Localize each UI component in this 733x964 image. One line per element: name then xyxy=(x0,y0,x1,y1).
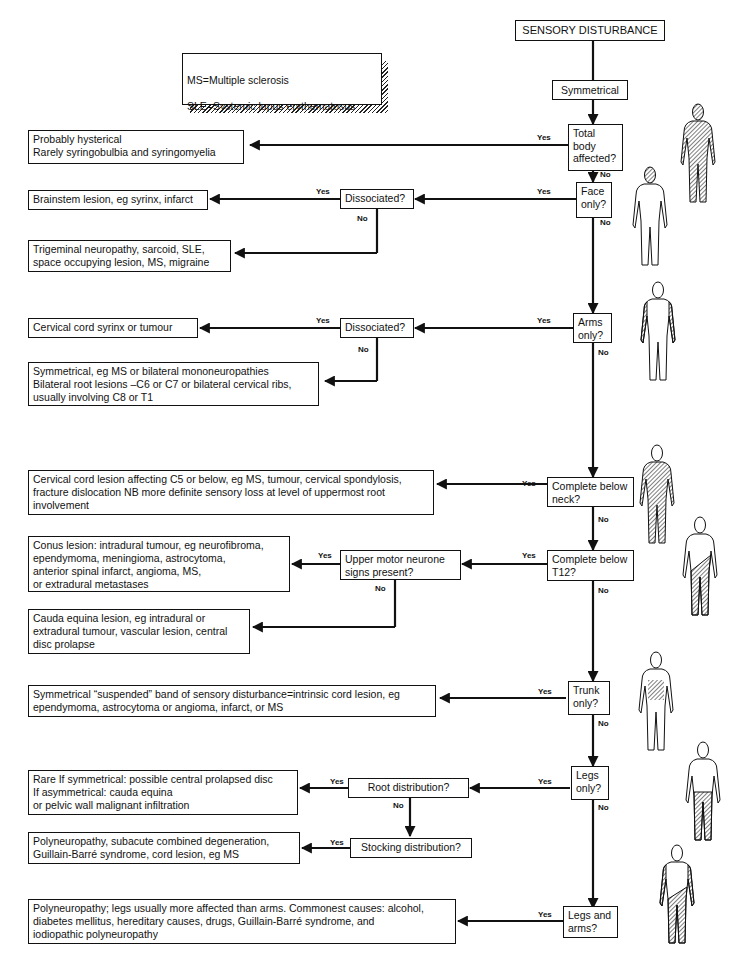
outcome-suspended-band: Symmetrical “suspended” band of sensory … xyxy=(28,685,436,717)
outcome-trigeminal-neuropathy: Trigeminal neuropathy, sarcoid, SLE, spa… xyxy=(28,240,231,272)
label-no: No xyxy=(600,218,611,227)
root-node: SENSORY DISTURBANCE xyxy=(515,20,665,41)
question-total-body: Total body affected? xyxy=(568,124,623,171)
label-yes: Yes xyxy=(522,551,536,560)
question-complete-below-t12: Complete below T12? xyxy=(547,550,634,581)
flowchart-canvas: SENSORY DISTURBANCE Symmetrical MS=Multi… xyxy=(0,0,733,964)
label-yes: Yes xyxy=(538,777,552,786)
label-yes: Yes xyxy=(538,910,552,919)
body-figure-total-icon xyxy=(678,102,718,206)
label-no: No xyxy=(393,801,404,810)
label-no: No xyxy=(598,515,609,524)
question-face-dissociated: Dissociated? xyxy=(340,189,414,209)
body-figure-below-t12-icon xyxy=(680,515,720,619)
label-yes: Yes xyxy=(330,838,344,847)
outcome-cervical-syrinx: Cervical cord syrinx or tumour xyxy=(28,318,198,338)
body-figure-below-neck-icon xyxy=(637,443,677,547)
outcome-cauda-equina-lesion: Cauda equina lesion, eg intradural or ex… xyxy=(28,609,250,654)
label-no: No xyxy=(358,345,369,354)
question-legs-only: Legs only? xyxy=(571,766,609,800)
question-complete-below-neck: Complete below neck? xyxy=(547,477,634,507)
label-yes: Yes xyxy=(316,316,330,325)
abbreviation-legend: MS=Multiple sclerosis SLE=Systemic lupus… xyxy=(182,53,382,105)
question-arms-dissociated: Dissociated? xyxy=(340,318,414,338)
label-no: No xyxy=(598,719,609,728)
body-figure-face-icon xyxy=(630,165,670,269)
label-yes: Yes xyxy=(537,187,551,196)
legend-item-sle: SLE=Systemic lupus erythematosus xyxy=(187,100,377,113)
label-no: No xyxy=(357,214,368,223)
question-upper-motor-neurone: Upper motor neurone signs present? xyxy=(340,550,461,580)
outcome-rare-disc: Rare If symmetrical: possible central pr… xyxy=(28,770,298,815)
question-legs-and-arms: Legs and arms? xyxy=(563,906,618,938)
outcome-arms-symmetrical: Symmetrical, eg MS or bilateral mononeur… xyxy=(28,362,319,406)
body-figure-legs-icon xyxy=(683,740,723,844)
label-no: No xyxy=(600,170,611,179)
question-stocking-distribution: Stocking distribution? xyxy=(350,838,472,858)
label-yes: Yes xyxy=(537,133,551,142)
question-trunk-only: Trunk only? xyxy=(568,681,610,715)
body-figure-legs-arms-icon xyxy=(657,843,697,947)
symmetrical-node: Symmetrical xyxy=(552,80,628,100)
label-yes: Yes xyxy=(522,479,536,488)
outcome-cervical-cord-lesion: Cervical cord lesion affecting C5 or bel… xyxy=(28,470,434,515)
question-face-only: Face only? xyxy=(576,182,612,218)
label-yes: Yes xyxy=(537,316,551,325)
label-yes: Yes xyxy=(538,687,552,696)
outcome-polyneuropathy-general: Polyneuropathy; legs usually more affect… xyxy=(28,899,456,944)
question-arms-only: Arms only? xyxy=(573,313,612,343)
label-yes: Yes xyxy=(316,187,330,196)
label-no: No xyxy=(375,584,386,593)
label-yes: Yes xyxy=(318,551,332,560)
outcome-conus-lesion: Conus lesion: intradural tumour, eg neur… xyxy=(28,536,290,592)
legend-item-ms: MS=Multiple sclerosis xyxy=(187,74,377,87)
label-no: No xyxy=(598,803,609,812)
body-figure-arms-icon xyxy=(638,280,678,384)
outcome-polyneuropathy-stocking: Polyneuropathy, subacute combined degene… xyxy=(28,832,300,864)
body-figure-trunk-icon xyxy=(636,650,676,754)
label-no: No xyxy=(598,348,609,357)
outcome-brainstem-lesion: Brainstem lesion, eg syrinx, infarct xyxy=(28,190,208,210)
outcome-hysterical: Probably hysterical Rarely syringobulbia… xyxy=(28,130,244,164)
label-yes: Yes xyxy=(330,777,344,786)
label-no: No xyxy=(598,586,609,595)
question-root-distribution: Root distribution? xyxy=(348,778,469,798)
